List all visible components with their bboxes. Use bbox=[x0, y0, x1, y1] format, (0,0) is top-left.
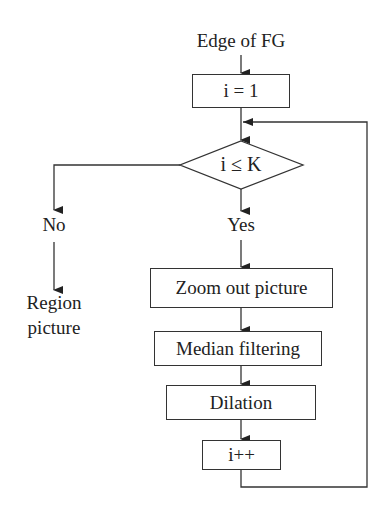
init-text: i = 1 bbox=[224, 80, 259, 102]
region-label-line2: picture bbox=[14, 317, 94, 339]
median-filter-text: Median filtering bbox=[176, 338, 300, 360]
increment-text: i++ bbox=[228, 444, 255, 466]
zoom-out-text: Zoom out picture bbox=[176, 277, 308, 299]
region-label-line1: Region bbox=[14, 292, 94, 314]
dilation-box: Dilation bbox=[166, 385, 316, 420]
init-box: i = 1 bbox=[192, 74, 290, 108]
median-filter-box: Median filtering bbox=[154, 331, 322, 366]
no-label: No bbox=[29, 214, 79, 236]
dilation-text: Dilation bbox=[210, 392, 272, 414]
start-label: Edge of FG bbox=[181, 30, 301, 52]
loop-back-arrowhead bbox=[243, 118, 253, 126]
arrow-cond-to-no bbox=[54, 165, 180, 210]
yes-label: Yes bbox=[211, 214, 271, 236]
decision-text: i ≤ K bbox=[201, 153, 281, 176]
increment-box: i++ bbox=[202, 440, 281, 470]
zoom-out-box: Zoom out picture bbox=[150, 268, 333, 308]
